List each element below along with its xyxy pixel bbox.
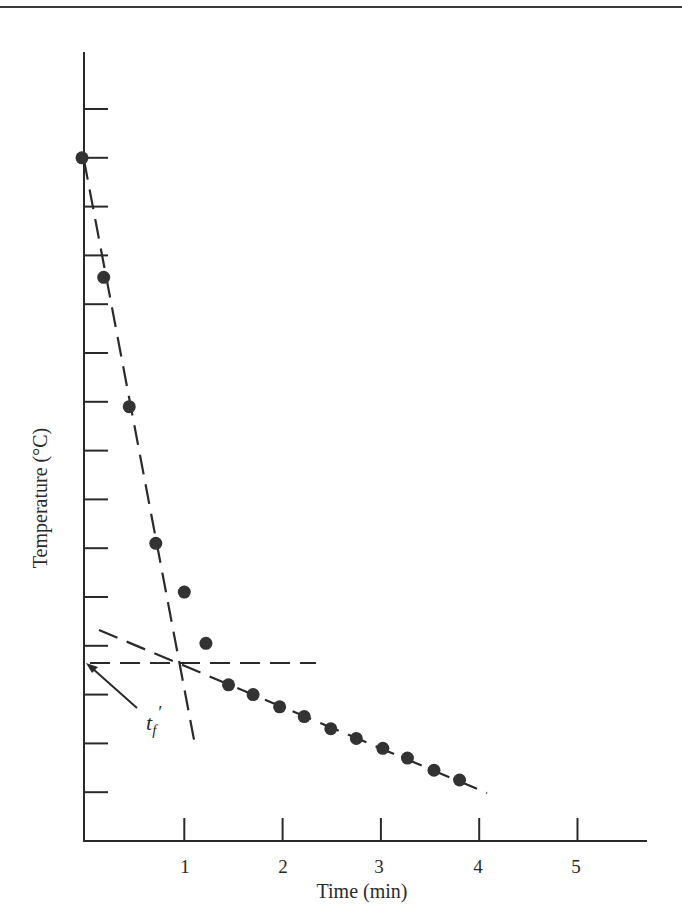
data-point bbox=[401, 752, 414, 765]
temperature-time-chart: 1 2 3 4 5 Time (min) Temperature (°C) tf… bbox=[0, 0, 682, 922]
y-ticks bbox=[84, 109, 108, 792]
data-point bbox=[453, 774, 466, 787]
data-points bbox=[76, 151, 467, 786]
x-ticks bbox=[184, 818, 577, 841]
x-tick-labels: 1 2 3 4 5 bbox=[180, 856, 581, 877]
data-point bbox=[97, 271, 110, 284]
data-point bbox=[149, 537, 162, 550]
data-point bbox=[350, 732, 363, 745]
data-point bbox=[123, 400, 136, 413]
x-tick-label-5: 5 bbox=[571, 856, 581, 877]
x-axis-title: Time (min) bbox=[317, 880, 408, 903]
x-tick-label-1: 1 bbox=[180, 856, 190, 877]
data-point bbox=[273, 700, 286, 713]
data-point bbox=[178, 586, 191, 599]
data-point bbox=[76, 151, 89, 164]
y-axis-title: Temperature (°C) bbox=[29, 428, 52, 568]
data-point bbox=[376, 742, 389, 755]
x-tick-label-2: 2 bbox=[278, 856, 288, 877]
data-point bbox=[222, 678, 235, 691]
x-tick-label-3: 3 bbox=[374, 856, 384, 877]
axes bbox=[83, 52, 647, 842]
tf-annotation-arrow bbox=[86, 663, 137, 708]
data-point bbox=[298, 710, 311, 723]
data-point bbox=[247, 688, 260, 701]
data-point bbox=[199, 637, 212, 650]
data-point bbox=[427, 764, 440, 777]
data-point bbox=[324, 722, 337, 735]
tf-prime-label: tf′ bbox=[146, 703, 162, 738]
x-tick-label-4: 4 bbox=[473, 856, 483, 877]
extrapolation-lines bbox=[84, 160, 487, 793]
fast-cooling-dashed-line bbox=[84, 160, 195, 745]
